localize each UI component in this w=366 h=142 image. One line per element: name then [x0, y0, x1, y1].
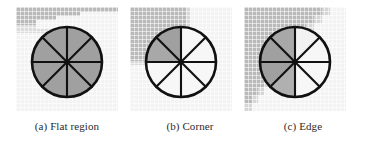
wedge-wheel-c: [244, 7, 346, 111]
panel-row: [0, 0, 366, 118]
wedge-wheel-a: [16, 7, 118, 111]
panel-corner: [130, 7, 232, 111]
caption-edge: (c) Edge: [238, 120, 366, 132]
caption-flat-region: (a) Flat region: [2, 120, 132, 132]
wedge-wheel-b: [130, 7, 232, 111]
panel-flat-region: [16, 7, 118, 111]
figure-container: (a) Flat region (b) Corner (c) Edge: [0, 0, 366, 142]
caption-row: (a) Flat region (b) Corner (c) Edge: [0, 118, 366, 142]
caption-corner: (b) Corner: [125, 120, 255, 132]
panel-edge: [244, 7, 346, 111]
